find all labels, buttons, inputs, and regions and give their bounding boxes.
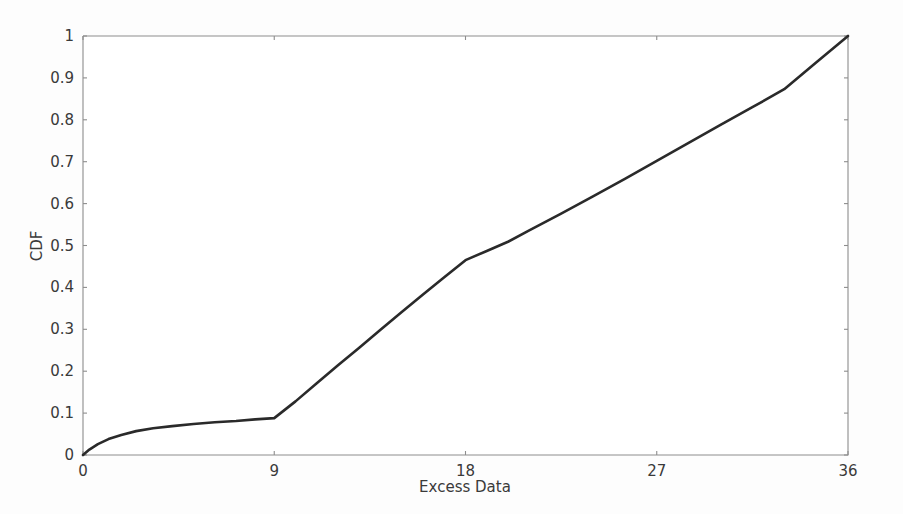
y-axis-title: CDF [28, 231, 46, 262]
plot-area-background [83, 36, 848, 455]
y-tick-label: 0.1 [50, 404, 74, 422]
x-axis-title: Excess Data [419, 478, 511, 496]
y-tick-label: 1 [64, 27, 74, 45]
x-tick-label: 9 [269, 462, 279, 480]
cdf-line-chart: 09182736 00.10.20.30.40.50.60.70.80.91 E… [0, 0, 903, 514]
y-tick-label: 0.5 [50, 237, 74, 255]
x-tick-label: 0 [78, 462, 88, 480]
chart-figure: 09182736 00.10.20.30.40.50.60.70.80.91 E… [0, 0, 903, 514]
y-tick-label: 0.6 [50, 195, 74, 213]
y-tick-label: 0.8 [50, 111, 74, 129]
y-tick-label: 0.3 [50, 320, 74, 338]
y-tick-label: 0.7 [50, 153, 74, 171]
y-tick-label: 0.2 [50, 362, 74, 380]
x-tick-label: 27 [647, 462, 666, 480]
y-tick-label: 0 [64, 446, 74, 464]
x-tick-label: 36 [838, 462, 857, 480]
y-tick-label: 0.4 [50, 278, 74, 296]
y-tick-label: 0.9 [50, 69, 74, 87]
